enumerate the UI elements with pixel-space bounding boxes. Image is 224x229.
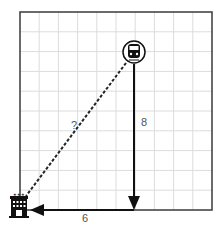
vertical-distance-label: 8 [141,117,147,128]
distance-diagram: ★★★ [0,0,224,229]
grid [20,12,212,210]
unknown-distance-label: ? [71,120,77,131]
train-icon [123,41,145,63]
horizontal-distance-label: 6 [82,213,88,224]
arrowhead-left-icon [30,204,44,216]
arrowhead-down-icon [128,196,140,210]
